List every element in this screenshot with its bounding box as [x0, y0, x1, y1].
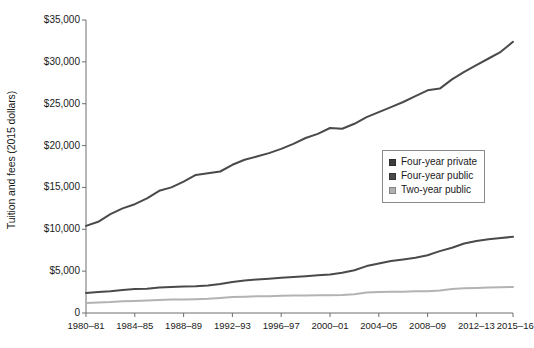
chart-legend: Four-year privateFour-year publicTwo-yea…	[382, 150, 485, 203]
x-axis-tick-label: 2004–05	[360, 321, 397, 331]
x-axis-tick-label: 1984–85	[116, 321, 153, 331]
x-axis-tick-label: 2015–16	[497, 321, 534, 331]
legend-item: Four-year public	[389, 169, 477, 183]
legend-item-label: Four-year public	[401, 171, 473, 181]
legend-item: Four-year private	[389, 155, 477, 169]
legend-item-label: Two-year public	[401, 185, 471, 195]
x-axis-tick-label: 1996–97	[263, 321, 300, 331]
legend-item-label: Four-year private	[401, 157, 477, 167]
x-axis-tick-label: 1988–89	[165, 321, 202, 331]
x-axis-tick-label: 2000–01	[312, 321, 349, 331]
tuition-line-chart: Tuition and fees (2015 dollars) $35,000$…	[0, 0, 534, 348]
legend-swatch-icon	[389, 159, 396, 166]
x-axis-tick-label: 2008–09	[409, 321, 446, 331]
x-axis-tick-label: 1980–81	[68, 321, 105, 331]
legend-item: Two-year public	[389, 183, 477, 197]
x-axis-tick-label: 2012–13	[458, 321, 495, 331]
x-axis-tick-label: 1992–93	[214, 321, 251, 331]
legend-swatch-icon	[389, 173, 396, 180]
legend-swatch-icon	[389, 187, 396, 194]
